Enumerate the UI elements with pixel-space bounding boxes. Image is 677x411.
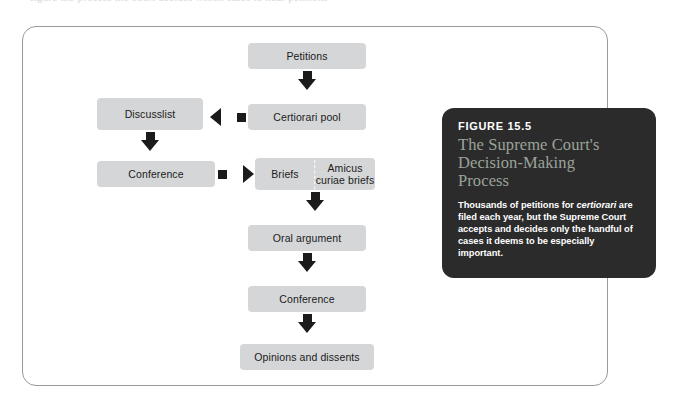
caption-term-certiorari: certiorari: [576, 200, 616, 210]
arrow-conference-to-briefs: [218, 164, 254, 184]
arrow-discuss-list-to-conference: [140, 132, 160, 152]
flow-node-opinions-and-dissents: Opinions and dissents: [240, 344, 374, 370]
figure-caption-panel: FIGURE 15.5 The Supreme Court's Decision…: [442, 108, 656, 278]
arrow-stem: [218, 170, 227, 179]
arrow-head: [298, 261, 316, 272]
flow-node-label-line-2: list: [162, 108, 175, 120]
flow-node-amicus-curiae-briefs: Amicus curiae briefs: [315, 158, 375, 190]
flow-node-label: Amicus curiae briefs: [316, 162, 375, 186]
flow-node-briefs: Briefs: [255, 158, 315, 190]
arrow-briefs-to-oral-argument: [305, 192, 325, 214]
arrow-petitions-to-cert-pool: [297, 71, 317, 91]
caption-text-before-term: Thousands of petitions for: [458, 200, 576, 210]
flow-node-briefs-group: Briefs Amicus curiae briefs: [255, 158, 375, 190]
arrow-oral-argument-to-conference: [297, 253, 317, 273]
flow-node-conference-first: Conference: [97, 161, 215, 187]
figure-title-line-2: Decision-Making: [458, 153, 575, 172]
arrow-head: [141, 140, 159, 151]
flow-node-conference-second: Conference: [248, 286, 366, 312]
figure-number-label: FIGURE 15.5: [458, 120, 640, 132]
flow-node-oral-argument: Oral argument: [248, 225, 366, 251]
arrow-head: [298, 322, 316, 333]
arrow-head: [210, 108, 221, 126]
arrow-cert-pool-to-discuss-list: [210, 107, 246, 127]
arrow-head: [243, 165, 254, 183]
figure-title-line-3: Process: [458, 171, 509, 190]
figure-title: The Supreme Court's Decision-Making Proc…: [458, 136, 640, 190]
arrow-stem: [237, 113, 246, 122]
flow-node-label-line-1: Discuss: [125, 108, 162, 120]
flow-node-discuss-list: Discuss list: [97, 98, 203, 130]
figure-title-line-1: The Supreme Court's: [458, 135, 599, 154]
arrow-head: [306, 200, 324, 211]
figure-caption-text: Thousands of petitions for certiorari ar…: [458, 199, 640, 259]
arrow-head: [298, 79, 316, 90]
arrow-conference-to-opinions: [297, 314, 317, 334]
flow-node-certiorari-pool: Certiorari pool: [248, 104, 366, 130]
flow-node-label-line-1: Amicus: [327, 162, 362, 174]
page-top-bleed-text: figure the process the court decides whi…: [30, 0, 590, 3]
flow-node-label-line-2: curiae briefs: [316, 174, 375, 186]
flow-node-petitions: Petitions: [248, 43, 366, 69]
flow-node-label: Briefs: [271, 168, 298, 180]
